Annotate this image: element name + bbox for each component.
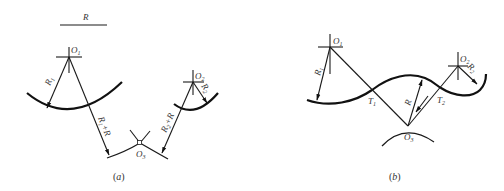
center-o3-label: O3 xyxy=(136,149,146,160)
tangent-t1-label: T1 xyxy=(368,96,376,107)
radius-r-label-b: R xyxy=(402,98,414,108)
caption-b: (b) xyxy=(389,171,401,183)
radius-r1-label: R1 xyxy=(42,75,56,88)
center-o2-label-b: O2 xyxy=(460,54,470,65)
tangent-t2-label: T2 xyxy=(437,95,445,106)
arc-connection-diagram: R O1 R1 R1+R O3 O2 xyxy=(0,0,504,191)
panel-a: R O1 R1 R1+R O3 O2 xyxy=(27,12,218,183)
reference-length-label: R xyxy=(82,12,89,22)
panel-b: O1 R1 T1 O3 R T2 O2 R2 (b) xyxy=(307,34,486,183)
s-curve xyxy=(307,74,486,104)
arc-r1 xyxy=(27,82,122,109)
center-o2-label: O2 xyxy=(195,71,205,82)
center-o3-cross xyxy=(130,130,150,145)
radius-r1-plus-r-arrow xyxy=(69,57,109,155)
radius-r2-plus-r-label: R2+R xyxy=(158,111,177,135)
line-o1-o3 xyxy=(330,47,408,126)
caption-a: (a) xyxy=(113,171,125,183)
arc-r2 xyxy=(174,93,218,110)
center-o1-label: O1 xyxy=(71,45,81,56)
center-o1-label-b: O1 xyxy=(333,36,343,47)
